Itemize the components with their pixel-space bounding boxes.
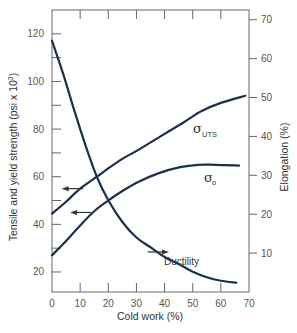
uts-label: σ bbox=[193, 121, 202, 136]
plot-frame bbox=[52, 10, 249, 292]
x-tick-label: 30 bbox=[131, 298, 143, 309]
y2-tick-label: 40 bbox=[261, 131, 273, 142]
y2-tick-label: 60 bbox=[261, 53, 273, 64]
y2-tick-label: 20 bbox=[261, 209, 273, 220]
y2-tick-label: 70 bbox=[261, 14, 273, 25]
y2-tick-label: 30 bbox=[261, 170, 273, 181]
y-tick-label: 20 bbox=[33, 266, 45, 277]
y-tick-label: 100 bbox=[27, 76, 44, 87]
y2-tick-label: 50 bbox=[261, 92, 273, 103]
uts-label-subscript: UTS bbox=[202, 130, 217, 139]
y-axis-title: Tensile and yield strength (psi x 103) bbox=[7, 73, 19, 242]
x-tick-label: 40 bbox=[159, 298, 171, 309]
series-line-ductility bbox=[52, 41, 236, 283]
y-tick-label: 40 bbox=[33, 219, 45, 230]
yield-label-subscript: o bbox=[212, 178, 216, 187]
arrow-head bbox=[62, 186, 69, 191]
series-line--uts bbox=[52, 96, 245, 214]
plot-border bbox=[52, 10, 249, 292]
arrow-left bbox=[62, 186, 83, 191]
x-tick-label: 60 bbox=[215, 298, 227, 309]
y2-axis-title: Elongation (%) bbox=[278, 123, 290, 192]
ticks: 0102030405060702040608010012010203040506… bbox=[27, 10, 272, 309]
arrow-head bbox=[162, 249, 169, 254]
y-tick-label: 80 bbox=[33, 124, 45, 135]
ductility-label: Ductility bbox=[164, 256, 199, 267]
x-tick-label: 0 bbox=[49, 298, 55, 309]
arrow-head bbox=[70, 210, 77, 215]
x-tick-label: 10 bbox=[75, 298, 87, 309]
arrow-left bbox=[70, 210, 91, 215]
x-tick-label: 20 bbox=[103, 298, 115, 309]
x-axis-title: Cold work (%) bbox=[117, 310, 183, 322]
x-tick-label: 70 bbox=[243, 298, 255, 309]
y-tick-label: 60 bbox=[33, 171, 45, 182]
x-tick-label: 50 bbox=[187, 298, 199, 309]
series-group bbox=[52, 41, 245, 283]
y2-tick-label: 10 bbox=[261, 248, 273, 259]
y-tick-label: 120 bbox=[27, 28, 44, 39]
chart: 0102030405060702040608010012010203040506… bbox=[0, 0, 297, 333]
